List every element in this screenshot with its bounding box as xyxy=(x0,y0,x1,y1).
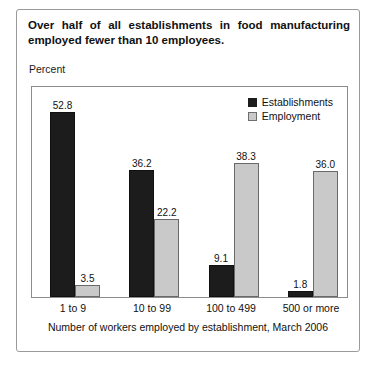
figure-panel: Over half of all establishments in food … xyxy=(16,9,360,352)
bar-group: 9.1 38.3 xyxy=(191,87,270,297)
bar-group: 52.8 3.5 xyxy=(32,87,111,297)
bar-value-label: 3.5 xyxy=(81,273,95,284)
bar-establishments: 52.8 xyxy=(50,112,75,297)
y-axis-label: Percent xyxy=(29,63,65,75)
bar-value-label: 52.8 xyxy=(53,100,72,111)
x-tick-label: 1 to 9 xyxy=(60,302,86,314)
x-tick-label: 10 to 99 xyxy=(133,302,171,314)
bar-establishments: 9.1 xyxy=(209,265,234,297)
bar-employment: 22.2 xyxy=(154,219,179,297)
plot-inner: Establishments Employment 52.8 3.5 xyxy=(32,87,347,297)
x-tick-label: 100 to 499 xyxy=(206,302,256,314)
x-tick-label: 500 or more xyxy=(283,302,340,314)
x-axis-tick-labels: 1 to 9 10 to 99 100 to 499 500 or more xyxy=(31,302,348,318)
bar-employment: 36.0 xyxy=(313,171,338,297)
bar-value-label: 38.3 xyxy=(236,151,255,162)
figure-title-line-2: employed fewer than 10 employees. xyxy=(28,33,350,48)
figure-title-line-1: Over half of all establishments in food … xyxy=(28,18,350,33)
bar-value-label: 36.0 xyxy=(316,159,335,170)
plot-area: Establishments Employment 52.8 3.5 xyxy=(31,86,348,298)
bar-value-label: 36.2 xyxy=(132,158,151,169)
bar-establishments: 1.8 xyxy=(288,291,313,297)
bar-employment: 38.3 xyxy=(234,163,259,297)
bar-group: 1.8 36.0 xyxy=(270,87,349,297)
bar-value-label: 1.8 xyxy=(293,279,307,290)
bar-establishments: 36.2 xyxy=(129,170,154,297)
figure-title: Over half of all establishments in food … xyxy=(28,18,350,48)
bar-group: 36.2 22.2 xyxy=(111,87,190,297)
bar-employment: 3.5 xyxy=(75,285,100,297)
bar-value-label: 9.1 xyxy=(214,253,228,264)
x-axis-title: Number of workers employed by establishm… xyxy=(17,321,359,333)
bar-value-label: 22.2 xyxy=(157,207,176,218)
